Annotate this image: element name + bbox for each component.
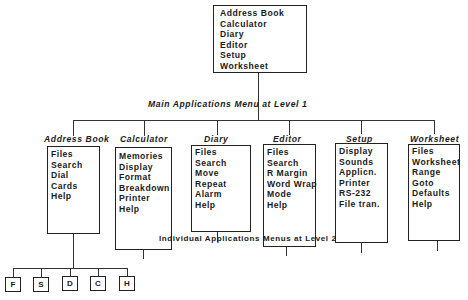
menu-item: Mode: [267, 189, 315, 200]
main-menu-item: Worksheet: [220, 61, 306, 72]
menu-title-address-book: Address Book: [44, 134, 109, 144]
menu-item: Memories: [119, 151, 171, 162]
menu-item: Dial: [51, 170, 99, 181]
menu-item: Repeat: [195, 179, 250, 190]
menu-item: Files: [51, 149, 99, 160]
connector-line: [41, 268, 42, 277]
menu-item: Files: [195, 147, 250, 158]
submenu-box-dial: D: [62, 276, 78, 291]
menu-item: Defaults: [412, 188, 459, 199]
menu-item: Display: [119, 162, 171, 173]
connector-line: [289, 120, 290, 135]
menu-item: R Margin: [267, 168, 315, 179]
menu-item: Files: [267, 147, 315, 158]
main-menu-item: Address Book: [220, 8, 306, 19]
menu-item: Help: [412, 199, 459, 210]
menu-title-worksheet: Worksheet: [410, 134, 459, 144]
menu-item: Search: [51, 160, 99, 171]
menu-item: Printer: [339, 178, 387, 189]
menu-item: Cards: [51, 181, 99, 192]
main-menu-box: Address Book Calculator Diary Editor Set…: [213, 5, 307, 73]
main-menu-item: Setup: [220, 50, 306, 61]
level2-caption: Individual Applications Menus at Level 2: [159, 234, 337, 243]
menu-item: Format: [119, 172, 171, 183]
submenu-box-help: H: [119, 276, 135, 291]
address-book-menu-box: Files Search Dial Cards Help: [47, 146, 100, 234]
menu-title-diary: Diary: [204, 134, 229, 144]
menu-item: Applicn.: [339, 167, 387, 178]
menu-item: Help: [267, 200, 315, 211]
menu-item: Breakdown: [119, 183, 171, 194]
connector-line: [286, 247, 287, 256]
menu-item: Files: [412, 146, 459, 157]
connector-line: [434, 120, 435, 134]
menu-item: Search: [267, 158, 315, 169]
menu-item: Range: [412, 167, 459, 178]
menu-item: Help: [195, 200, 250, 211]
menu-item: Worksheet: [412, 157, 459, 168]
connector-line: [73, 234, 74, 268]
connector-line: [361, 243, 362, 253]
main-menu-item: Editor: [220, 40, 306, 51]
main-menu-item: Diary: [220, 29, 306, 40]
menu-item: Alarm: [195, 189, 250, 200]
menu-item: Move: [195, 168, 250, 179]
submenu-box-search: S: [33, 277, 49, 292]
submenu-box-files: F: [5, 277, 21, 292]
menu-item: RS-232: [339, 188, 387, 199]
main-menu-item: Calculator: [220, 19, 306, 30]
menu-item: Display: [339, 146, 387, 157]
setup-menu-box: Display Sounds Applicn. Printer RS-232 F…: [335, 143, 388, 243]
level1-caption: Main Applications Menu at Level 1: [148, 99, 307, 109]
diary-menu-box: Files Search Move Repeat Alarm Help: [191, 145, 251, 232]
connector-line: [361, 120, 362, 134]
level1-bar: [73, 120, 435, 121]
connector-line: [217, 120, 218, 135]
submenu-box-cards: C: [90, 276, 106, 291]
editor-menu-box: Files Search R Margin Word Wrap Mode Hel…: [263, 144, 316, 247]
menu-title-editor: Editor: [273, 134, 301, 144]
menu-item: Word Wrap: [267, 179, 315, 190]
connector-line: [258, 73, 259, 120]
main-menu-items: Address Book Calculator Diary Editor Set…: [220, 8, 306, 72]
connector-line: [143, 250, 144, 259]
worksheet-menu-box: Files Worksheet Range Goto Defaults Help: [408, 144, 460, 241]
menu-item: Search: [195, 158, 250, 169]
menu-item: Help: [51, 191, 99, 202]
menu-title-calculator: Calculator: [120, 134, 168, 144]
menu-item: Help: [119, 204, 171, 215]
menu-item: File tran.: [339, 199, 387, 210]
menu-item: Printer: [119, 193, 171, 204]
menu-item: Goto: [412, 178, 459, 189]
connector-line: [13, 268, 14, 277]
connector-line: [437, 241, 438, 251]
menu-item: Sounds: [339, 157, 387, 168]
